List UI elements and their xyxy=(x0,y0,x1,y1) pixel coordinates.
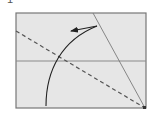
fold-diagram xyxy=(0,0,153,114)
corner-dot xyxy=(143,106,146,109)
